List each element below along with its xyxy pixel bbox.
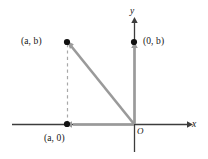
figure-canvas [0, 0, 208, 159]
vector-group [66, 41, 138, 128]
point-label-0b: (0, b) [143, 37, 164, 47]
point-label-a0: (a, 0) [44, 134, 65, 144]
point-ab-marker [64, 39, 70, 45]
x-axis-label: x [192, 120, 196, 130]
point-a0-marker [64, 121, 70, 127]
vector-to-ab-shaft [72, 47, 135, 125]
y-axis-label: y [130, 7, 134, 17]
point-0b-marker [131, 39, 137, 45]
point-label-ab: (a, b) [21, 37, 42, 47]
coordinate-plane-figure: (a, b) (0, b) (a, 0) O x y [0, 0, 208, 159]
origin-label: O [137, 127, 144, 136]
y-axis-arrowhead [131, 17, 137, 23]
